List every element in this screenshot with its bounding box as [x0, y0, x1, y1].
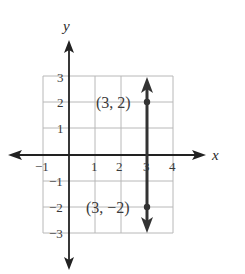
x-tick-labels: −1 1 2 3 4 [35, 159, 176, 174]
svg-text:4: 4 [169, 159, 176, 174]
svg-text:1: 1 [57, 121, 64, 136]
svg-text:−2: −2 [49, 200, 63, 215]
point-3-2 [144, 99, 150, 105]
point-label-lower: (3, −2) [86, 199, 130, 217]
point-3-neg2 [144, 204, 150, 210]
y-axis-label: y [61, 18, 70, 34]
x-axis-label: x [211, 147, 219, 163]
svg-text:2: 2 [116, 159, 123, 174]
svg-text:−1: −1 [35, 159, 49, 174]
svg-text:2: 2 [57, 95, 64, 110]
svg-text:3: 3 [57, 70, 64, 85]
svg-text:−1: −1 [49, 174, 63, 189]
point-label-upper: (3, 2) [96, 94, 131, 112]
coordinate-plane: x y −1 1 2 3 4 3 2 1 −1 −2 −3 (3, 2) (3,… [0, 0, 245, 274]
svg-text:1: 1 [91, 159, 98, 174]
svg-text:−3: −3 [49, 226, 63, 241]
